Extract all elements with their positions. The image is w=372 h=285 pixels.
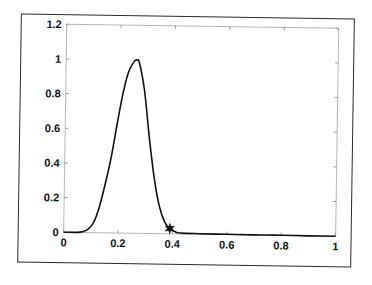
x-tick-label: 0.2 bbox=[110, 237, 125, 249]
y-axis-tick-labels: 00.20.40.60.811.2 bbox=[43, 18, 62, 238]
data-series-line bbox=[64, 59, 339, 237]
plot-area-border bbox=[64, 24, 339, 236]
y-tick-label: 0 bbox=[52, 226, 58, 238]
x-tick-label: 0.8 bbox=[273, 239, 288, 251]
x-tick-label: 1 bbox=[332, 240, 338, 252]
chart-figure: 00.20.40.60.81 00.20.40.60.811.2 bbox=[0, 0, 372, 285]
x-tick-label: 0.6 bbox=[219, 239, 234, 251]
x-tick-label: 0.4 bbox=[165, 238, 181, 250]
y-tick-label: 0.6 bbox=[45, 122, 60, 134]
axes-box bbox=[64, 24, 339, 236]
axis-ticks bbox=[64, 24, 339, 236]
x-axis-tick-labels: 00.20.40.60.81 bbox=[60, 236, 338, 252]
y-tick-label: 0.4 bbox=[44, 157, 60, 169]
line-chart: 00.20.40.60.81 00.20.40.60.811.2 bbox=[0, 0, 372, 285]
x-tick-label: 0 bbox=[60, 236, 66, 248]
y-tick-label: 0.8 bbox=[45, 87, 60, 99]
y-tick-label: 1 bbox=[55, 53, 61, 65]
y-tick-label: 0.2 bbox=[44, 191, 59, 203]
y-tick-label: 1.2 bbox=[46, 18, 61, 30]
